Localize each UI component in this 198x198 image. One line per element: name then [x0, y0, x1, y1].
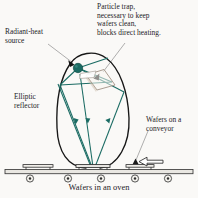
- leader-line-radiant-heat-source: [48, 44, 73, 63]
- conveyor-roller: [164, 175, 171, 182]
- label-radiant-heat-source: Radiant-heat source: [5, 28, 43, 45]
- conveyor-rollers: [26, 175, 171, 182]
- ray-arrowheads: [74, 118, 111, 125]
- wafer-carriers: [23, 165, 154, 170]
- conveyor-roller: [64, 175, 71, 182]
- particle-trap-blocking-shield: [80, 71, 97, 79]
- radiant-heat-source-highlight: [75, 65, 78, 68]
- radiant-heat-source: [73, 63, 82, 72]
- ray-arrowhead-right: [105, 118, 110, 124]
- leader-line-conveyor: [136, 131, 148, 160]
- leader-lines: [48, 43, 148, 160]
- radiant-heat-source-body: [73, 63, 82, 72]
- conveyor: [5, 159, 193, 183]
- conveyor-belt: [5, 170, 193, 174]
- label-wafers-on-conveyor: Wafers on a conveyor: [146, 116, 181, 133]
- wafer-carrier: [23, 165, 53, 170]
- label-particle-trap: Particle trap, necessary to keep wafers …: [97, 3, 161, 37]
- conveyor-roller: [131, 175, 138, 182]
- label-elliptic-reflector: Elliptic reflector: [14, 93, 39, 110]
- wafer-carrier: [76, 165, 110, 170]
- figure-wafers-in-an-oven: Particle trap, necessary to keep wafers …: [0, 0, 198, 198]
- figure-caption: Wafers in an oven: [0, 184, 198, 193]
- wafer-marker: [133, 159, 139, 165]
- conveyor-roller: [97, 175, 104, 182]
- conveyor-roller: [26, 175, 33, 182]
- elliptic-reflector: [57, 53, 129, 168]
- elliptic-reflector-outline: [57, 53, 129, 168]
- ray-reflected-outer-left: [58, 84, 91, 167]
- wafer-carrier: [126, 165, 154, 170]
- particle-trap: [80, 70, 116, 93]
